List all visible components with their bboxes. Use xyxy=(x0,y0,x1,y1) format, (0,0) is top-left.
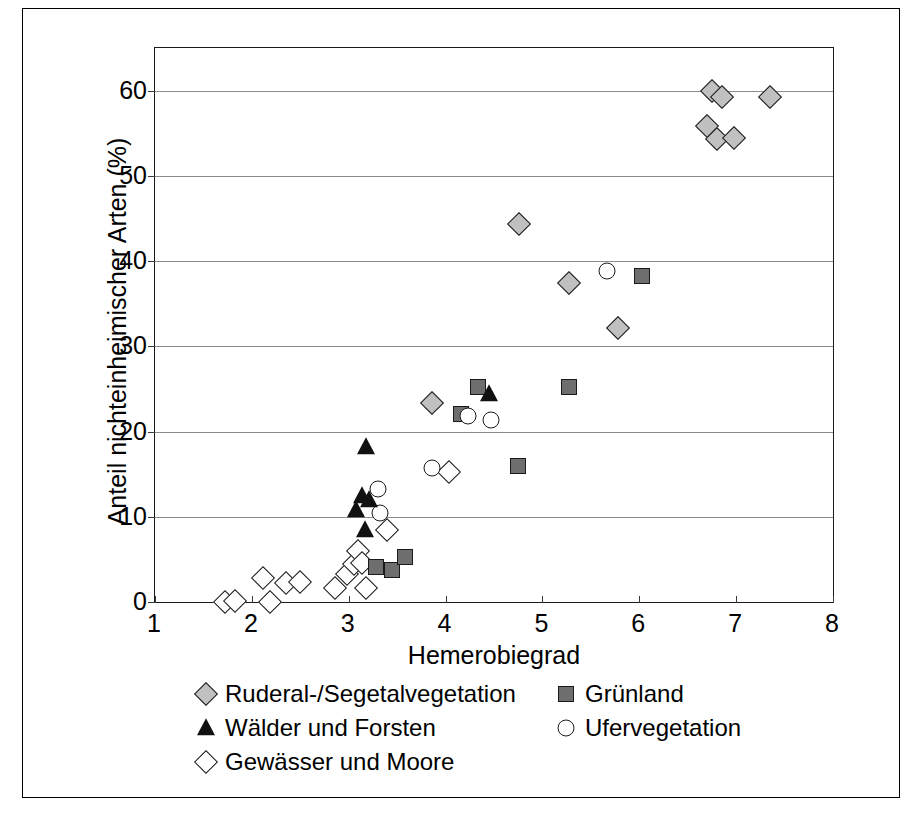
diamond-open-marker-icon xyxy=(194,750,218,774)
x-axis-tick-labels: 12345678 xyxy=(154,611,834,643)
data-point xyxy=(557,271,581,295)
data-point xyxy=(357,437,375,454)
y-axis-title: Anteil nichteinheimischer Arten (%) xyxy=(103,52,132,612)
y-tick-0 xyxy=(148,602,155,603)
data-point xyxy=(397,549,413,565)
y-tick-20 xyxy=(148,432,155,433)
data-point xyxy=(420,391,444,415)
legend-entry[interactable]: Wälder und Forsten xyxy=(193,711,436,745)
legend-swatch xyxy=(553,715,579,741)
data-point xyxy=(561,379,577,395)
data-point xyxy=(510,458,526,474)
x-tick-label-1: 1 xyxy=(134,611,174,636)
y-tick-10 xyxy=(148,517,155,518)
gridline-y-60 xyxy=(155,91,833,92)
data-point xyxy=(368,559,384,575)
x-tick-2 xyxy=(252,596,253,603)
gridline-y-40 xyxy=(155,261,833,262)
x-tick-label-6: 6 xyxy=(618,611,658,636)
legend-label: Ufervegetation xyxy=(585,714,741,742)
data-point xyxy=(437,460,461,484)
gridline-y-50 xyxy=(155,176,833,177)
data-point xyxy=(251,566,275,590)
data-point xyxy=(483,412,500,429)
x-tick-label-3: 3 xyxy=(328,611,368,636)
gridline-y-30 xyxy=(155,346,833,347)
data-point xyxy=(722,126,746,150)
data-point xyxy=(634,268,650,284)
legend-label: Ruderal-/Segetalvegetation xyxy=(225,680,516,708)
x-tick-label-2: 2 xyxy=(231,611,271,636)
legend-entry[interactable]: Gewässer und Moore xyxy=(193,745,454,779)
data-point xyxy=(758,85,782,109)
triangle-filled-marker-icon xyxy=(197,718,215,735)
legend-swatch xyxy=(193,681,219,707)
x-tick-1 xyxy=(155,596,156,603)
circle-open-marker-icon xyxy=(558,720,575,737)
x-tick-label-5: 5 xyxy=(521,611,561,636)
data-point xyxy=(606,316,630,340)
legend-entry[interactable]: Ruderal-/Segetalvegetation xyxy=(193,677,516,711)
data-point xyxy=(459,408,476,425)
x-tick-label-7: 7 xyxy=(715,611,755,636)
diamond-filled-marker-icon xyxy=(194,682,218,706)
legend-row: Ruderal-/SegetalvegetationGrünland xyxy=(193,677,793,711)
legend-label: Wälder und Forsten xyxy=(225,714,436,742)
chart-legend: Ruderal-/SegetalvegetationGrünlandWälder… xyxy=(193,677,793,779)
y-tick-30 xyxy=(148,346,155,347)
x-tick-label-4: 4 xyxy=(425,611,465,636)
data-point xyxy=(375,518,399,542)
legend-swatch xyxy=(193,749,219,775)
data-point xyxy=(384,562,400,578)
y-tick-40 xyxy=(148,261,155,262)
data-point xyxy=(480,384,498,401)
data-point xyxy=(360,490,378,507)
x-axis-title: Hemerobiegrad xyxy=(154,641,834,670)
data-point xyxy=(288,570,312,594)
data-point xyxy=(599,263,616,280)
legend-row: Wälder und ForstenUfervegetation xyxy=(193,711,793,745)
y-tick-50 xyxy=(148,176,155,177)
y-tick-60 xyxy=(148,91,155,92)
x-tick-4 xyxy=(446,596,447,603)
x-tick-5 xyxy=(542,596,543,603)
gridline-y-20 xyxy=(155,432,833,433)
x-tick-3 xyxy=(349,596,350,603)
x-tick-8 xyxy=(833,596,834,603)
data-point xyxy=(356,521,374,538)
data-point xyxy=(507,212,531,236)
legend-label: Gewässer und Moore xyxy=(225,748,454,776)
legend-swatch xyxy=(193,715,219,741)
data-point xyxy=(354,575,378,599)
data-point xyxy=(424,460,441,477)
legend-entry[interactable]: Ufervegetation xyxy=(553,711,741,745)
x-tick-7 xyxy=(736,596,737,603)
legend-swatch xyxy=(553,681,579,707)
legend-label: Grünland xyxy=(585,680,684,708)
legend-row: Gewässer und Moore xyxy=(193,745,793,779)
figure-frame: 0102030405060 12345678 Hemerobiegrad Ant… xyxy=(22,8,900,798)
x-tick-6 xyxy=(639,596,640,603)
x-tick-label-8: 8 xyxy=(812,611,852,636)
plot-area xyxy=(154,47,834,603)
square-filled-marker-icon xyxy=(558,686,574,702)
legend-entry[interactable]: Grünland xyxy=(553,677,684,711)
gridline-y-10 xyxy=(155,517,833,518)
